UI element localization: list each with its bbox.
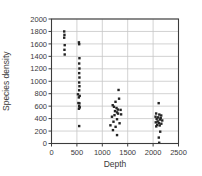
data-point (113, 106, 115, 108)
y-tick-label: 1600 (30, 40, 47, 49)
y-tick-label: 800 (34, 89, 47, 98)
data-point (116, 118, 118, 120)
data-point (109, 124, 111, 126)
data-point (117, 108, 119, 110)
data-point (113, 114, 115, 116)
data-point (78, 72, 80, 74)
x-tick-label: 1500 (119, 148, 136, 157)
data-point (161, 119, 163, 121)
y-tick-label: 2000 (30, 15, 47, 24)
data-point (154, 116, 156, 118)
data-point (117, 112, 119, 114)
y-tick-label: 200 (34, 127, 47, 136)
data-point (78, 96, 80, 98)
data-point (111, 116, 113, 118)
data-point (114, 126, 116, 128)
data-point (78, 81, 80, 83)
y-tick-label: 1000 (30, 77, 47, 86)
data-point (63, 36, 65, 38)
y-tick-label: 400 (34, 114, 47, 123)
data-point (118, 122, 120, 124)
data-point (78, 108, 80, 110)
x-tick-label: 2500 (170, 148, 187, 157)
data-point (159, 130, 161, 132)
data-point (78, 62, 80, 64)
data-point (120, 113, 122, 115)
data-point (78, 76, 80, 78)
y-tick-label: 1800 (30, 27, 47, 36)
data-point (78, 43, 80, 45)
data-point (155, 118, 157, 120)
y-tick-label: 600 (34, 102, 47, 111)
y-axis-title: Species density (1, 51, 11, 111)
data-point (63, 30, 65, 32)
data-point (159, 124, 161, 126)
data-point (160, 114, 162, 116)
x-tick-label: 500 (71, 148, 84, 157)
data-point (118, 97, 120, 99)
data-point (157, 102, 159, 104)
y-tick-label: 1400 (30, 52, 47, 61)
data-point (64, 53, 66, 55)
data-point (155, 112, 157, 114)
y-tick-label: 0 (43, 139, 47, 148)
data-point (114, 101, 116, 103)
data-point (64, 44, 66, 46)
data-point (155, 121, 157, 123)
data-point (78, 57, 80, 59)
data-point (112, 129, 114, 131)
data-point (78, 125, 80, 127)
x-tick-label: 2000 (145, 148, 162, 157)
data-point (112, 121, 114, 123)
data-point (159, 118, 161, 120)
x-axis-title: Depth (104, 159, 127, 169)
data-point (78, 85, 80, 87)
data-point (78, 89, 80, 91)
data-point (117, 89, 119, 91)
scatter-chart: 0200400600800100012001400160018002000050… (0, 0, 202, 176)
y-tick-label: 1200 (30, 64, 47, 73)
data-point (158, 136, 160, 138)
x-tick-label: 0 (49, 148, 53, 157)
data-point (119, 109, 121, 111)
data-point (116, 134, 118, 136)
data-point (78, 67, 80, 69)
data-point (155, 125, 157, 127)
x-tick-label: 1000 (94, 148, 111, 157)
data-point (63, 34, 65, 36)
data-point (63, 49, 65, 51)
plot-area: 0200400600800100012001400160018002000050… (0, 0, 202, 176)
data-point (78, 102, 80, 104)
